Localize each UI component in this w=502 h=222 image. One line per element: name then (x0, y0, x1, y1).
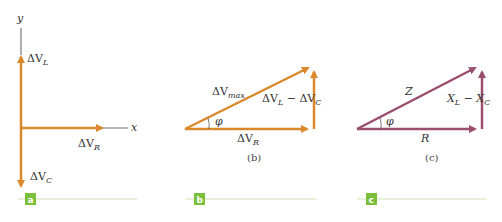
angle-arc (380, 118, 381, 129)
label-R: R (420, 132, 429, 145)
svg-text:a: a (28, 195, 34, 205)
label-VL: ΔVL (27, 52, 48, 67)
caption-c: (c) (425, 152, 439, 163)
y-axis-label: y (16, 12, 24, 25)
svg-text:c: c (369, 195, 374, 205)
angle-phi: φ (215, 115, 223, 128)
label-Vmax: ΔVmax (212, 85, 245, 100)
label-VL-minus-VC: ΔVL − ΔVC (262, 92, 321, 107)
svg-text:b: b (197, 195, 204, 205)
panel-a: y x ΔVL ΔVR ΔVC a (16, 12, 138, 205)
label-Z: Z (404, 85, 413, 98)
label-VR: ΔVR (237, 132, 259, 147)
panel-c: φ Z XL − XC R (c) c (357, 68, 490, 205)
label-VR: ΔVR (78, 137, 100, 152)
x-axis-label: x (131, 121, 138, 134)
angle-arc (208, 118, 209, 129)
label-XL-minus-XC: XL − XC (446, 92, 490, 107)
panel-b: φ ΔVmax ΔVL − ΔVC ΔVR (b) b (185, 68, 321, 205)
label-VC: ΔVC (30, 170, 52, 185)
angle-phi: φ (386, 115, 394, 128)
caption-b: (b) (247, 152, 261, 163)
phasor-diagram: y x ΔVL ΔVR ΔVC a φ ΔVmax ΔVL − ΔVC ΔVR … (0, 0, 502, 222)
